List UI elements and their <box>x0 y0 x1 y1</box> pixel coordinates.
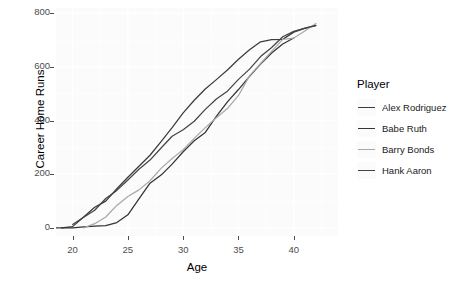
plot-area <box>56 8 338 236</box>
x-tick-label: 20 <box>53 244 93 255</box>
legend-item[interactable]: Hank Aaron <box>357 160 465 181</box>
y-axis-title: Career Home Runs <box>34 19 46 219</box>
x-axis-title: Age <box>55 261 339 273</box>
plot-panel <box>56 8 338 236</box>
x-tick-mark <box>128 236 129 240</box>
y-tick-label: 0 <box>6 222 50 232</box>
legend-item-label: Barry Bonds <box>382 144 434 155</box>
legend-item-label: Babe Ruth <box>382 123 427 134</box>
x-tick-mark <box>73 236 74 240</box>
y-tick-mark <box>50 174 54 175</box>
legend-item[interactable]: Alex Rodriguez <box>357 97 465 118</box>
y-tick-label: 800 <box>6 7 50 17</box>
x-tick-mark <box>294 236 295 240</box>
legend-line-icon <box>357 162 376 179</box>
x-tick-label: 40 <box>274 244 314 255</box>
legend-item-label: Hank Aaron <box>382 165 432 176</box>
line-chart: 0200400600800 Career Home Runs Age Playe… <box>0 0 467 283</box>
legend-line-icon <box>357 141 376 158</box>
y-tick-mark <box>50 67 54 68</box>
x-tick-mark <box>238 236 239 240</box>
legend-line-icon <box>357 99 376 116</box>
legend-item-label: Alex Rodriguez <box>382 102 446 113</box>
x-tick-mark <box>183 236 184 240</box>
y-tick-mark <box>50 228 54 229</box>
x-tick-label: 25 <box>108 244 148 255</box>
legend: Player Alex RodriguezBabe RuthBarry Bond… <box>357 78 465 181</box>
x-tick-label: 30 <box>163 244 203 255</box>
legend-item[interactable]: Barry Bonds <box>357 139 465 160</box>
x-tick-label: 35 <box>218 244 258 255</box>
legend-items: Alex RodriguezBabe RuthBarry BondsHank A… <box>357 97 465 181</box>
y-tick-mark <box>50 13 54 14</box>
legend-item[interactable]: Babe Ruth <box>357 118 465 139</box>
legend-title: Player <box>357 78 465 90</box>
legend-line-icon <box>357 120 376 137</box>
y-tick-mark <box>50 121 54 122</box>
